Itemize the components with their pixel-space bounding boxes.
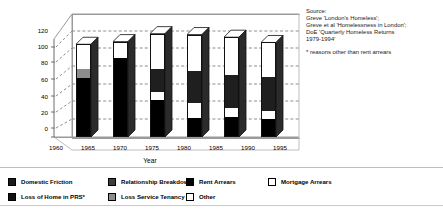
bar-segment-1978-other <box>151 92 164 100</box>
bar-1972 <box>113 0 128 168</box>
bar-segment-1972-mortgage-arrears <box>114 43 127 59</box>
bar-segment-1985-mortgage-arrears <box>188 36 201 71</box>
legend-swatch-icon <box>108 193 116 201</box>
x-tick-1975: 1975 <box>140 145 164 151</box>
x-tick-1965: 1965 <box>76 145 100 151</box>
legend-swatch-icon <box>186 193 194 201</box>
legend-label: Relationship Breakdown <box>121 178 192 186</box>
source-footnote: * reasons other than rent arrears <box>306 49 440 56</box>
x-axis-title: Year <box>0 157 300 164</box>
bar-segment-1978-rent-arrears <box>151 100 164 137</box>
bar-segment-1985-rent-arrears <box>188 118 201 137</box>
bar-segment-1995-relationship-breakdown <box>262 77 275 111</box>
legend-label: Loss Service Tenancy <box>121 193 185 201</box>
source-line-4: DoE 'Quarterly Homeless Returns <box>306 29 440 36</box>
legend-swatch-icon <box>108 178 116 186</box>
source-line-1: Source: <box>306 8 440 15</box>
bar-segment-1990-rent-arrears <box>225 117 238 137</box>
x-tick-1985: 1985 <box>204 145 228 151</box>
bottom-divider <box>0 205 443 206</box>
x-axis-labels: 1960 1965 1970 1975 1980 1985 1990 1995 <box>0 145 310 157</box>
x-tick-1970: 1970 <box>108 145 132 151</box>
legend-label: Rent Arrears <box>199 178 236 186</box>
legend-label: Domestic Friction <box>21 178 72 186</box>
bar-segment-1990-other <box>225 108 238 117</box>
bar-segment-1985-relationship-breakdown <box>188 71 201 103</box>
chart-screenshot: 120 100 80 60 40 20 0 1960 1965 <box>0 0 443 210</box>
source-note: Source: Greve 'London's Homeless'; Greve… <box>306 8 440 57</box>
bar-front-1978 <box>150 34 165 137</box>
legend-label: Loss of Home in PRS* <box>21 193 85 201</box>
legend-label: Mortgage Arrears <box>281 178 332 186</box>
legend-swatch-icon <box>8 193 16 201</box>
bar-series-container <box>0 0 300 168</box>
bar-segment-1965-rent-arrears <box>77 78 90 137</box>
chart-legend: Domestic FrictionRelationship BreakdownR… <box>0 167 443 210</box>
bar-front-1985 <box>187 35 202 137</box>
source-line-5: 1979-1994' <box>306 36 440 43</box>
x-tick-1980: 1980 <box>172 145 196 151</box>
bar-1990 <box>224 0 239 168</box>
bar-1978 <box>150 0 165 168</box>
bar-segment-1995-other <box>262 111 275 119</box>
legend-swatch-icon <box>8 178 16 186</box>
x-tick-1995: 1995 <box>268 145 292 151</box>
legend-swatch-icon <box>186 178 194 186</box>
bar-segment-1990-relationship-breakdown <box>225 75 238 108</box>
bar-front-1965 <box>76 44 91 137</box>
bar-1995 <box>261 0 276 168</box>
bar-segment-1965-mortgage-arrears <box>77 45 90 69</box>
legend-swatch-icon <box>268 178 276 186</box>
plot-area: 120 100 80 60 40 20 0 1960 1965 <box>0 0 300 168</box>
source-line-2: Greve 'London's Homeless'; <box>306 15 440 22</box>
bar-segment-1995-rent-arrears <box>262 119 275 137</box>
bar-segment-1972-rent-arrears <box>114 58 127 137</box>
bar-front-1990 <box>224 37 239 137</box>
legend-label: Other <box>199 193 215 201</box>
bar-segment-1965-loss-service-tenancy <box>77 69 90 78</box>
bar-segment-1985-other <box>188 103 201 118</box>
x-tick-1960: 1960 <box>44 145 68 151</box>
source-line-3: Greve et al 'Homelessness in London'; <box>306 22 440 29</box>
bar-segment-1990-mortgage-arrears <box>225 38 238 75</box>
bar-front-1995 <box>261 42 276 137</box>
bar-segment-1978-mortgage-arrears <box>151 35 164 69</box>
bar-1965 <box>76 0 91 168</box>
bar-segment-1978-relationship-breakdown <box>151 69 164 92</box>
bar-segment-1995-mortgage-arrears <box>262 43 275 77</box>
x-tick-1990: 1990 <box>236 145 260 151</box>
bar-front-1972 <box>113 42 128 137</box>
bar-1985 <box>187 0 202 168</box>
